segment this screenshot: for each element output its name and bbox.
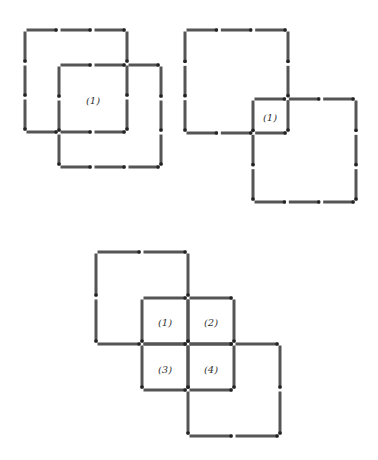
match-head-icon [186, 293, 190, 297]
square-label: (3) [158, 364, 172, 375]
matchstick [57, 67, 61, 98]
matchstick [57, 135, 61, 166]
matchstick [27, 130, 58, 134]
match-head-icon [249, 28, 253, 32]
match-head-icon [159, 162, 163, 166]
match-head-icon [215, 131, 219, 135]
matchstick [255, 97, 287, 101]
match-head-icon [283, 97, 287, 101]
matchstick [140, 346, 144, 389]
match-head-icon [183, 296, 187, 300]
matchstick [187, 28, 219, 32]
matchstick [289, 97, 321, 101]
matchstick [354, 101, 358, 133]
match-head-icon [88, 130, 92, 134]
matchstick [255, 131, 287, 135]
match-head-icon [278, 385, 282, 389]
match-head-icon [140, 385, 144, 389]
match-head-icon [286, 128, 290, 132]
match-head-icon [23, 59, 27, 63]
matchstick [190, 342, 233, 346]
matchstick [186, 254, 190, 297]
matchstick [232, 346, 236, 389]
match-head-icon [122, 63, 126, 67]
matchstick [354, 135, 358, 167]
match-head-icon [122, 165, 126, 169]
matchstick [61, 63, 92, 67]
match-head-icon [251, 163, 255, 167]
match-head-icon [354, 129, 358, 133]
matchstick [94, 254, 98, 297]
matchstick [354, 169, 358, 201]
matchstick [61, 130, 92, 134]
matchstick [278, 392, 282, 435]
square-label: (1) [263, 112, 277, 123]
matchstick [251, 135, 255, 167]
matchstick [190, 388, 233, 392]
matchstick [278, 346, 282, 389]
match-head-icon [88, 63, 92, 67]
matchstick [57, 101, 61, 132]
matchstick [129, 165, 160, 169]
match-head-icon [283, 28, 287, 32]
matchstick [323, 97, 355, 101]
matchstick [186, 392, 190, 435]
match-head-icon [137, 342, 141, 346]
match-head-icon [156, 63, 160, 67]
match-head-icon [283, 200, 287, 204]
match-head-icon [351, 97, 355, 101]
matchstick [23, 66, 27, 97]
match-head-icon [125, 127, 129, 131]
match-head-icon [122, 130, 126, 134]
matchstick [251, 101, 255, 133]
matchstick [159, 67, 163, 98]
matchstick [129, 63, 160, 67]
matchstick [251, 169, 255, 201]
matchstick [183, 32, 187, 64]
matchstick [23, 32, 27, 63]
matchstick [159, 135, 163, 166]
match-head-icon [229, 296, 233, 300]
match-head-icon [283, 131, 287, 135]
match-head-icon [94, 339, 98, 343]
matchstick [236, 434, 279, 438]
match-head-icon [23, 93, 27, 97]
matchstick [95, 28, 126, 32]
matchstick [140, 300, 144, 343]
matchstick [61, 28, 92, 32]
matchstick [187, 131, 219, 135]
match-head-icon [186, 385, 190, 389]
match-head-icon [23, 127, 27, 131]
matchstick [221, 131, 253, 135]
match-head-icon [317, 97, 321, 101]
match-head-icon [278, 431, 282, 435]
matchstick [125, 100, 129, 131]
matchstick [286, 66, 290, 98]
match-head-icon [286, 94, 290, 98]
matchstick [144, 388, 187, 392]
match-head-icon [57, 128, 61, 132]
matchstick [95, 165, 126, 169]
match-head-icon [156, 165, 160, 169]
match-head-icon [88, 165, 92, 169]
match-head-icon [232, 339, 236, 343]
match-head-icon [183, 250, 187, 254]
match-head-icon [159, 128, 163, 132]
matchstick [255, 28, 287, 32]
match-head-icon [251, 197, 255, 201]
match-head-icon [275, 434, 279, 438]
match-head-icon [183, 60, 187, 64]
match-head-icon [354, 163, 358, 167]
match-head-icon [229, 434, 233, 438]
match-head-icon [88, 28, 92, 32]
match-head-icon [137, 250, 141, 254]
matchstick [190, 434, 233, 438]
match-head-icon [251, 129, 255, 133]
match-head-icon [57, 162, 61, 166]
matchstick [236, 342, 279, 346]
match-head-icon [57, 94, 61, 98]
match-head-icon [54, 28, 58, 32]
matchstick [61, 165, 92, 169]
square-label: (4) [204, 364, 218, 375]
match-head-icon [54, 130, 58, 134]
